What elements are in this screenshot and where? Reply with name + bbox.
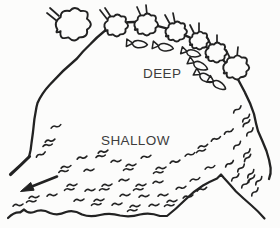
marsh-mark (47, 194, 57, 196)
marsh-mark (42, 139, 55, 146)
fish-icon (126, 39, 147, 48)
tree-icon (134, 5, 158, 36)
marsh-mark (119, 179, 129, 181)
marsh-mark (232, 106, 242, 113)
marsh-mark (170, 160, 180, 163)
marsh-mark (36, 152, 46, 157)
marsh-mark (254, 177, 263, 185)
marsh-mark (111, 160, 121, 162)
marsh-mark (232, 141, 241, 149)
marsh-mark (225, 160, 235, 167)
marsh-mark (185, 153, 195, 157)
marsh-mark (141, 155, 151, 158)
marsh-mark (158, 194, 168, 196)
shallow-label: SHALLOW (101, 133, 170, 148)
marsh-mark (100, 184, 113, 190)
marsh-mark (92, 199, 105, 205)
fish-icon (152, 41, 174, 52)
marsh-mark (245, 128, 254, 136)
marsh-mark (195, 144, 208, 152)
marsh-mark (139, 195, 149, 197)
marsh-mark (230, 174, 240, 181)
diagram-canvas: DEEP SHALLOW (0, 0, 280, 228)
marsh-mark (224, 129, 234, 134)
marsh-mark (112, 203, 122, 205)
marsh-mark (190, 178, 200, 182)
marsh-mark (77, 156, 87, 159)
marsh-mark (51, 125, 61, 129)
tree-icon (190, 23, 209, 50)
marsh-mark (74, 199, 84, 201)
marsh-mark (244, 170, 258, 183)
lake-map-drawing (0, 0, 280, 228)
marsh-mark (13, 204, 23, 206)
marsh-mark (65, 184, 78, 190)
marsh-mark (120, 194, 130, 196)
marsh-mark (165, 200, 178, 206)
tree-icon (205, 35, 226, 63)
marsh-mark (239, 114, 253, 126)
marsh-mark (58, 165, 71, 172)
tree-icon (165, 13, 187, 42)
marsh-mark (27, 196, 40, 202)
marsh-mark (236, 164, 245, 172)
marsh-mark (134, 184, 147, 190)
marsh-mark (240, 180, 249, 188)
marsh-mark (176, 186, 186, 189)
marsh-mark (149, 204, 159, 206)
marsh-mark (240, 149, 254, 162)
tree-icon (223, 47, 249, 80)
marsh-mark (95, 150, 108, 157)
current-arrow (21, 177, 58, 192)
marsh-mark (153, 181, 163, 183)
marsh-mark (85, 189, 95, 191)
marsh-mark (128, 205, 141, 211)
marsh-mark (250, 188, 259, 196)
tree-icon (47, 8, 91, 41)
fish-icon (207, 76, 228, 92)
marsh-mark (84, 169, 94, 171)
deep-label: DEEP (143, 66, 181, 81)
lake-outline-left-bank (11, 157, 30, 175)
marsh-mark (124, 164, 137, 170)
marsh-mark (211, 137, 221, 142)
marsh-mark (205, 166, 215, 170)
marsh-mark (154, 167, 167, 173)
